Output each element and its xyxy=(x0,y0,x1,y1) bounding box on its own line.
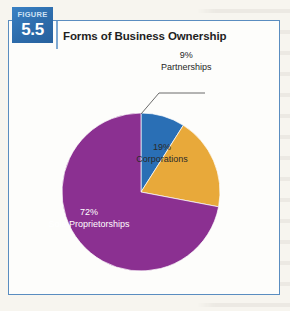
sole-proprietorships-percent: 72% xyxy=(21,206,157,218)
slice-label-sole-proprietorships: 72% Sole Proprietorships xyxy=(21,206,157,230)
partnerships-name: Partnerships xyxy=(161,61,212,73)
figure-panel: FIGURE 5.5 Forms of Business Ownership 9… xyxy=(8,20,280,295)
corporations-name: Corporations xyxy=(119,153,205,165)
sole-proprietorships-name: Sole Proprietorships xyxy=(21,218,157,230)
figure-badge-word: FIGURE xyxy=(12,7,53,20)
partnerships-leader-line xyxy=(141,93,205,114)
slice-label-partnerships: 9% Partnerships xyxy=(161,49,212,73)
corporations-percent: 19% xyxy=(119,141,205,153)
pie-slice-group xyxy=(62,113,220,271)
pie-chart: 9% Partnerships 19% Corporations 72% Sol… xyxy=(9,21,281,296)
partnerships-percent: 9% xyxy=(161,49,212,61)
slice-label-corporations: 19% Corporations xyxy=(119,141,205,165)
